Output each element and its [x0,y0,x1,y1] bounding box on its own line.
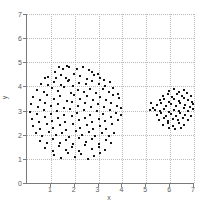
data-point [44,147,46,149]
y-tick-label: 2 [0,131,22,138]
data-point [68,136,70,138]
data-point [116,105,118,107]
data-point [68,79,70,81]
data-point [113,132,115,134]
data-point [38,121,40,123]
gridline-horizontal [27,135,194,136]
data-point [83,91,85,93]
data-point [190,95,192,97]
data-point [60,74,62,76]
data-point [183,97,185,99]
data-point [172,118,174,120]
y-tick-mark [23,38,26,39]
data-point [97,103,99,105]
x-tick-label: 2 [72,186,76,193]
data-point [90,106,92,108]
data-point [67,152,69,154]
data-point [91,80,93,82]
data-point [79,98,81,100]
data-point [73,73,75,75]
data-point [85,83,87,85]
data-point [168,90,170,92]
data-point [184,104,186,106]
data-point [36,113,38,115]
data-point [77,105,79,107]
data-point [167,122,169,124]
data-point [104,120,106,122]
gridline-horizontal [27,14,194,15]
data-point [84,102,86,104]
data-point [63,107,65,109]
data-point [82,66,84,68]
data-point [52,150,54,152]
data-point [162,95,164,97]
data-point [39,128,41,130]
data-point [178,122,180,124]
data-point [97,73,99,75]
data-point [152,107,154,109]
data-point [192,103,194,105]
data-point [187,119,189,121]
data-point [149,109,151,111]
data-point [65,149,67,151]
data-point [89,114,91,116]
data-point [117,93,119,95]
data-point [59,95,61,97]
data-point [160,102,162,104]
data-point [99,77,101,79]
data-point [39,140,41,142]
data-point [72,143,74,145]
data-point [31,118,33,120]
data-point [160,112,162,114]
data-point [54,71,56,73]
data-point [108,91,110,93]
data-point [159,99,161,101]
y-tick-mark [23,86,26,87]
data-point [43,91,45,93]
data-point [39,99,41,101]
data-point [179,102,181,104]
data-point [179,112,181,114]
data-point [36,89,38,91]
data-point [46,123,48,125]
data-point [47,84,49,86]
data-point [44,102,46,104]
data-point [103,79,105,81]
data-point [112,94,114,96]
data-point [102,88,104,90]
data-point [57,90,59,92]
data-point [85,141,87,143]
data-point [44,77,46,79]
data-point [183,89,185,91]
data-point [65,77,67,79]
data-point [117,119,119,121]
data-point [61,132,63,134]
data-point [115,112,117,114]
data-point [64,121,66,123]
y-tick-label: 0 [0,180,22,187]
data-point [57,103,59,105]
data-point [50,113,52,115]
data-point [186,92,188,94]
data-point [37,106,39,108]
data-point [73,94,75,96]
data-point [86,78,88,80]
data-point [120,114,122,116]
data-point [112,87,114,89]
data-point [98,143,100,145]
data-point [32,125,34,127]
data-point [52,138,54,140]
y-tick-mark [23,111,26,112]
data-point [175,115,177,117]
data-point [50,105,52,107]
y-tick-label: 1 [0,155,22,162]
data-point [76,112,78,114]
data-point [56,110,58,112]
data-point [40,83,42,85]
data-point [78,82,80,84]
data-point [183,107,185,109]
gridline-vertical [99,14,100,183]
data-point [104,149,106,151]
gridline-vertical [51,14,52,183]
data-point [94,135,96,137]
